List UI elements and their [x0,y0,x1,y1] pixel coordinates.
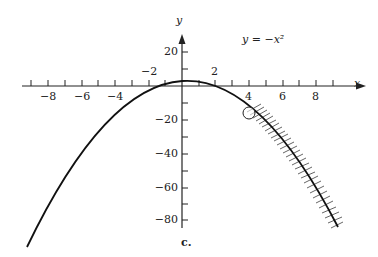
equation-label: y = −x² [242,33,284,46]
x-tick-label: 2 [211,65,218,78]
y-tick-label: −80 [155,213,178,226]
x-tick-label: −8 [40,90,56,103]
x-axis-label: x [354,77,360,90]
x-tick-label: 8 [312,90,319,103]
figure-caption: c. [181,236,192,249]
x-tick-label: −2 [141,65,157,78]
x-tick-label: −4 [107,90,123,103]
x-tick-label: −6 [74,90,90,103]
y-tick-label: 20 [164,45,178,58]
x-tick-label: 6 [279,90,286,103]
y-tick-label: −20 [155,113,178,126]
y-tick-label: −40 [155,147,178,160]
x-tick-label: 4 [245,90,252,103]
y-axis-label: y [176,14,182,27]
y-tick-label: −60 [155,181,178,194]
